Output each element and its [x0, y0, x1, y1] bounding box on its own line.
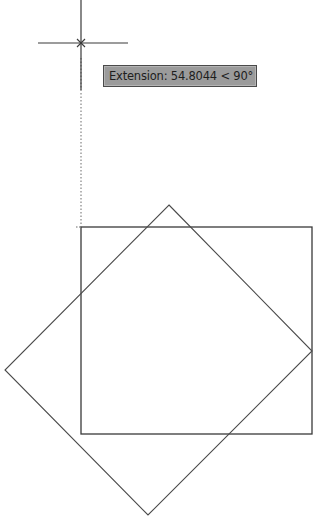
rotated-square-shape[interactable]: [5, 205, 312, 515]
extension-tooltip: Extension: 54.8044 < 90°: [103, 65, 257, 87]
extension-tooltip-label: Extension: 54.8044 < 90°: [109, 69, 253, 83]
